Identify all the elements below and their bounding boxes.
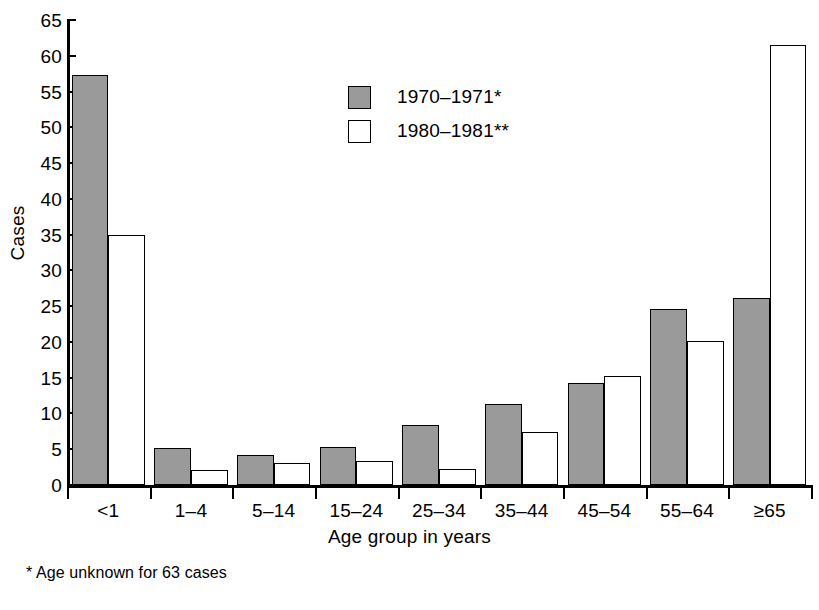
y-tick-label: 35 [18,225,62,244]
y-tick-label: 40 [18,189,62,208]
x-tick-mark [811,487,813,499]
bar-series1 [485,404,522,485]
bar-series1 [72,75,109,485]
legend-swatch-gray [348,86,371,109]
x-tick-mark [315,487,317,499]
x-axis-title: Age group in years [0,526,819,548]
bar-series2 [439,469,476,485]
bar-group [232,20,315,485]
x-tick-label: 35–44 [495,500,549,523]
bar-series1 [320,447,357,485]
bar-series1 [650,309,687,485]
x-tick-label: 1–4 [175,500,207,523]
bar-series1 [237,455,274,485]
y-tick-label: 15 [18,368,62,387]
y-tick-label: 65 [18,11,62,30]
bar-series1 [402,425,439,485]
y-tick-label: 50 [18,118,62,137]
footnote-block: * Age unknown for 63 cases [26,562,626,584]
y-tick-label: 25 [18,297,62,316]
y-tick-label: 60 [18,46,62,65]
bar-group [646,20,729,485]
bar-series1 [154,448,191,485]
x-tick-label: 5–14 [252,500,295,523]
bar-series2 [356,461,393,485]
bar-chart-figure: Cases 05101520253035404550556065 <11–45–… [0,0,819,610]
y-tick-label: 10 [18,404,62,423]
x-tick-label: 15–24 [329,500,383,523]
y-tick-label: 20 [18,332,62,351]
legend-swatch-white [348,120,371,143]
x-tick-label: ≥65 [754,500,786,523]
x-tick-label: 55–64 [660,500,714,523]
x-tick-mark [398,487,400,499]
x-tick-mark [480,487,482,499]
y-tick-label: 55 [18,82,62,101]
bar-series2 [108,235,145,485]
x-tick-label: <1 [97,500,119,523]
x-tick-mark [728,487,730,499]
bar-series2 [274,463,311,485]
bar-group [150,20,233,485]
bar-series2 [191,470,228,485]
bar-group [728,20,811,485]
x-tick-mark [150,487,152,499]
x-axis-tick-marks [0,487,819,501]
bar-series2 [687,341,724,486]
x-tick-mark [646,487,648,499]
bar-series1 [568,383,605,485]
y-tick-label: 30 [18,261,62,280]
x-tick-label: 45–54 [577,500,631,523]
bar-series1 [733,298,770,485]
footnote: * Age unknown for 63 cases [26,562,626,584]
bar-group [67,20,150,485]
bar-series2 [604,376,641,485]
x-tick-mark [67,487,69,499]
x-tick-mark [232,487,234,499]
bar-series2 [522,432,559,485]
bar-series2 [770,45,807,485]
legend-label: 1970–1971* [397,86,502,108]
legend-label: 1980–1981** [397,120,509,142]
x-tick-mark [563,487,565,499]
legend-entry: 1970–1971* [348,80,608,114]
legend-entry: 1980–1981** [348,114,608,148]
y-tick-label: 5 [18,440,62,459]
chart-legend: 1970–1971*1980–1981** [348,80,608,148]
y-tick-label: 45 [18,154,62,173]
x-tick-label: 25–34 [412,500,466,523]
